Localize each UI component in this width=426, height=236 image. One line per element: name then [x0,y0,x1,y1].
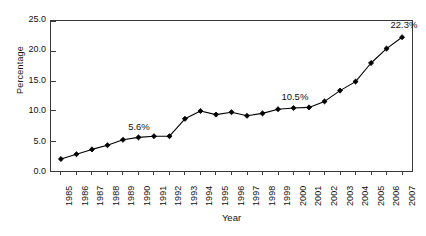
x-axis-tick-label: 1999 [282,186,292,206]
x-axis-tick-label: 1994 [204,186,214,206]
data-point-marker [260,111,265,116]
x-axis-tick-label: 1993 [189,186,199,206]
chart-figure: Percentage 0.05.010.015.020.025.0 198519… [0,0,426,236]
data-point-marker [58,156,63,161]
x-axis-tick-label: 1996 [236,186,246,206]
x-axis-tick-label: 1991 [158,186,168,206]
data-value-annotation: 10.5% [281,91,308,102]
data-point-marker [105,143,110,148]
plot-area [50,20,413,172]
x-axis-tick-label: 2003 [345,186,355,206]
data-point-marker [229,110,234,115]
x-axis-tick-label: 2004 [360,186,370,206]
data-point-marker [244,113,249,118]
data-point-marker [89,147,94,152]
y-axis-tick-label: 10.0 [16,106,46,115]
x-axis-tick-label: 1988 [111,186,121,206]
data-point-marker [213,112,218,117]
x-axis-title: Year [50,212,413,223]
data-point-marker [74,152,79,157]
data-point-marker [275,107,280,112]
x-axis-tick-label: 1998 [267,186,277,206]
line-series-svg [51,21,412,171]
x-axis-tick-label: 2002 [329,186,339,206]
x-axis-tick-label: 1985 [64,186,74,206]
x-axis-tick-labels: 1985198619871988198919901991199219931994… [50,172,413,216]
y-axis-tick-label: 15.0 [16,76,46,85]
x-axis-tick-label: 2000 [298,186,308,206]
x-axis-tick-label: 1989 [126,186,136,206]
data-point-marker [291,105,296,110]
data-line [61,37,402,159]
data-point-marker [198,108,203,113]
data-point-marker [120,137,125,142]
x-axis-tick-label: 1990 [142,186,152,206]
data-point-marker [306,105,311,110]
x-axis-tick-label: 1986 [80,186,90,206]
x-axis-tick-label: 2007 [407,186,417,206]
data-value-annotation: 22.3% [391,19,418,30]
y-axis-tick-label: 5.0 [16,137,46,146]
y-axis-tick-labels: 0.05.010.015.020.025.0 [14,0,46,236]
x-axis-tick-label: 2001 [313,186,323,206]
x-axis-tick-label: 2005 [376,186,386,206]
y-axis-tick-label: 25.0 [16,15,46,24]
x-axis-tick-label: 1997 [251,186,261,206]
data-value-annotation: 5.6% [128,121,150,132]
y-axis-tick-label: 0.0 [16,167,46,176]
data-point-marker [151,134,156,139]
data-point-marker [136,135,141,140]
x-axis-tick-label: 1987 [95,186,105,206]
x-axis-tick-label: 1992 [173,186,183,206]
x-axis-tick-label: 2006 [391,186,401,206]
x-axis-tick-label: 1995 [220,186,230,206]
y-axis-tick-label: 20.0 [16,45,46,54]
